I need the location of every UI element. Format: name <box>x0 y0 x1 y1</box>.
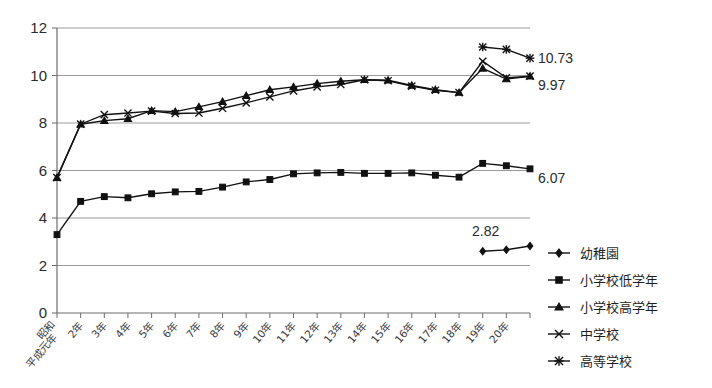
data-series-group <box>53 43 534 255</box>
y-tick-label: 10 <box>30 67 47 84</box>
x-tick-label: 18年 <box>439 320 463 346</box>
y-tick-label: 4 <box>39 209 47 226</box>
x-tick-label: 13年 <box>321 320 345 346</box>
legend-label: 小学校低学年 <box>580 273 658 288</box>
legend-label: 中学校 <box>580 327 619 342</box>
legend-marker-diamond <box>556 249 562 257</box>
data-point-marker-square <box>480 160 486 166</box>
x-tick-label: 16年 <box>392 320 416 346</box>
x-tick-label: 2年 <box>65 320 85 340</box>
data-point-marker-square <box>220 184 226 190</box>
x-tick-label: 11年 <box>274 320 298 346</box>
data-point-marker-square <box>527 166 533 172</box>
legend-item-2[interactable]: 小学校高学年 <box>548 300 658 315</box>
x-tick-label: 7年 <box>184 320 204 340</box>
legend-label: 小学校高学年 <box>580 300 658 315</box>
legend-marker-asterisk <box>554 356 564 366</box>
gridlines-group <box>57 28 530 266</box>
y-tick-label: 6 <box>39 162 47 179</box>
data-point-marker-asterisk <box>502 45 511 54</box>
data-point-marker-square <box>503 163 509 169</box>
data-point-marker-square <box>314 170 320 176</box>
legend-marker-square <box>556 277 562 283</box>
data-point-marker-square <box>243 179 249 185</box>
value-annotations-group: 10.739.976.072.82 <box>472 50 573 239</box>
y-tick-label: 12 <box>30 19 47 36</box>
series-1 <box>54 160 533 237</box>
value-label-10.73: 10.73 <box>538 50 573 66</box>
value-label-9.97: 9.97 <box>538 77 565 93</box>
legend-label: 幼稚園 <box>580 246 619 261</box>
legend-item-1[interactable]: 小学校低学年 <box>548 273 658 288</box>
data-point-marker-square <box>409 170 415 176</box>
x-tick-label: 5年 <box>136 320 156 340</box>
data-point-marker-square <box>101 194 107 200</box>
series-0 <box>480 242 533 254</box>
data-point-marker-square <box>267 177 273 183</box>
legend-item-4[interactable]: 高等学校 <box>548 354 632 369</box>
series-4 <box>478 43 534 63</box>
x-tick-label: 19年 <box>463 320 487 346</box>
y-tick-label: 8 <box>39 114 47 131</box>
data-point-marker-square <box>149 191 155 197</box>
value-label-2.82: 2.82 <box>472 223 499 239</box>
value-label-6.07: 6.07 <box>538 170 565 186</box>
legend: 幼稚園小学校低学年小学校高学年中学校高等学校 <box>548 246 658 369</box>
x-tick-label: 9年 <box>231 320 251 340</box>
data-point-marker-square <box>172 189 178 195</box>
x-tick-label: 6年 <box>160 320 180 340</box>
y-tick-label: 0 <box>39 304 47 321</box>
x-tick-label: 15年 <box>368 320 392 346</box>
data-point-marker-asterisk <box>526 54 535 63</box>
x-tick-label: 8年 <box>207 320 227 340</box>
data-point-marker-square <box>125 195 131 201</box>
data-point-marker-diamond <box>504 246 510 253</box>
y-axis-tick-labels: 024681012 <box>30 19 47 321</box>
legend-label: 高等学校 <box>580 354 632 369</box>
data-point-marker-square <box>291 171 297 177</box>
data-point-marker-square <box>54 232 60 238</box>
data-point-marker-square <box>456 174 462 180</box>
y-tick-label: 2 <box>39 257 47 274</box>
chart-container: 024681012 昭和平成元年2年3年4年5年6年7年8年9年10年11年12… <box>0 0 712 388</box>
x-tick-label: 12年 <box>297 320 321 346</box>
data-point-marker-square <box>362 170 368 176</box>
line-chart: 024681012 昭和平成元年2年3年4年5年6年7年8年9年10年11年12… <box>0 0 712 388</box>
data-point-marker-diamond <box>480 248 486 255</box>
data-point-marker-square <box>385 170 391 176</box>
data-point-marker-asterisk <box>478 43 487 52</box>
x-axis-tick-labels: 昭和平成元年2年3年4年5年6年7年8年9年10年11年12年13年14年15年… <box>24 319 511 370</box>
x-tick-label: 20年 <box>487 320 511 346</box>
legend-item-0[interactable]: 幼稚園 <box>548 246 619 261</box>
x-tick-label: 10年 <box>250 320 274 346</box>
legend-item-3[interactable]: 中学校 <box>548 327 619 342</box>
data-point-marker-square <box>78 198 84 204</box>
data-point-marker-square <box>433 172 439 178</box>
x-tick-label: 4年 <box>113 320 133 340</box>
x-tick-label: 14年 <box>345 320 369 346</box>
data-point-marker-diamond <box>527 242 533 249</box>
data-point-marker-square <box>338 170 344 176</box>
x-tick-label: 3年 <box>89 320 109 340</box>
x-tick-label: 17年 <box>416 320 440 346</box>
data-point-marker-square <box>196 189 202 195</box>
